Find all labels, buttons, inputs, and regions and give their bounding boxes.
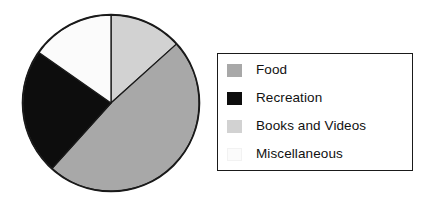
legend-label-books-and-videos: Books and Videos bbox=[256, 119, 366, 133]
legend-items: Food Recreation Books and Videos Miscell… bbox=[218, 54, 412, 170]
legend-swatch-food bbox=[227, 64, 242, 77]
legend-swatch-recreation bbox=[227, 92, 242, 105]
legend: Food Recreation Books and Videos Miscell… bbox=[217, 53, 413, 171]
pie-chart-figure: Food Recreation Books and Videos Miscell… bbox=[0, 0, 427, 204]
legend-swatch-miscellaneous bbox=[227, 148, 242, 161]
legend-item-books-and-videos[interactable]: Books and Videos bbox=[227, 115, 412, 137]
legend-label-recreation: Recreation bbox=[256, 91, 322, 105]
legend-label-food: Food bbox=[256, 63, 287, 77]
legend-item-food[interactable]: Food bbox=[227, 59, 412, 81]
legend-label-miscellaneous: Miscellaneous bbox=[256, 147, 343, 161]
pie-slices bbox=[23, 15, 199, 191]
legend-swatch-books-and-videos bbox=[227, 120, 242, 133]
legend-item-miscellaneous[interactable]: Miscellaneous bbox=[227, 143, 412, 165]
legend-item-recreation[interactable]: Recreation bbox=[227, 87, 412, 109]
pie-chart bbox=[21, 13, 201, 193]
pie-chart-svg bbox=[21, 13, 201, 193]
